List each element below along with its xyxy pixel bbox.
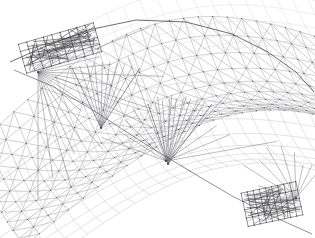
- grid-node: [138, 108, 139, 109]
- cluster-node: [262, 205, 263, 206]
- cluster-node: [253, 190, 254, 191]
- grid-node: [27, 219, 28, 220]
- grid-node: [185, 131, 186, 132]
- grid-node: [54, 221, 55, 222]
- grid-node: [285, 27, 286, 28]
- grid-node: [81, 140, 82, 141]
- grid-node: [227, 17, 228, 18]
- grid-node: [257, 104, 258, 105]
- cluster-node: [293, 199, 294, 200]
- grid-node: [297, 59, 298, 60]
- grid-node: [178, 129, 179, 130]
- grid-node: [209, 85, 210, 86]
- grid-node: [233, 35, 234, 36]
- grid-node: [294, 100, 295, 101]
- grid-node: [82, 102, 83, 103]
- cluster-node: [84, 56, 85, 57]
- grid-node: [192, 123, 193, 124]
- grid-node: [114, 157, 115, 158]
- grid-node: [11, 154, 12, 155]
- grid-node: [155, 24, 156, 25]
- grid-node: [287, 92, 288, 93]
- grid-node: [36, 200, 37, 201]
- cluster-node: [101, 51, 102, 52]
- grid-node: [116, 134, 117, 135]
- grid-node: [211, 53, 212, 54]
- grid-node: [68, 111, 69, 112]
- grid-node: [9, 191, 10, 192]
- cluster-node: [285, 192, 286, 193]
- grid-node: [130, 126, 131, 127]
- cluster-node: [68, 29, 69, 30]
- cluster-node: [271, 186, 272, 187]
- cluster-node: [299, 198, 300, 199]
- grid-node: [19, 127, 20, 128]
- grid-node: [24, 180, 25, 181]
- cluster-node: [34, 39, 35, 40]
- mesh-viewport[interactable]: [0, 0, 315, 238]
- cluster-node: [47, 51, 48, 52]
- grid-node: [122, 142, 123, 143]
- cluster-node: [68, 61, 69, 62]
- grid-node: [39, 233, 40, 234]
- grid-node: [215, 111, 216, 112]
- grid-node: [153, 66, 154, 67]
- cluster-node: [278, 219, 279, 220]
- grid-node: [144, 119, 145, 120]
- grid-node: [212, 16, 213, 17]
- cluster-node: [59, 63, 60, 64]
- grid-node: [79, 170, 80, 171]
- grid-node: [174, 78, 175, 79]
- grid-node: [221, 114, 222, 115]
- cluster-node: [277, 185, 278, 186]
- cluster-node: [247, 191, 248, 192]
- grid-node: [204, 35, 205, 36]
- cluster-node: [246, 218, 247, 219]
- grid-node: [225, 52, 226, 53]
- grid-node: [203, 71, 204, 72]
- grid-node: [161, 43, 162, 44]
- grid-node: [13, 230, 14, 231]
- grid-node: [50, 190, 51, 191]
- grid-node: [136, 134, 137, 135]
- cluster-node: [53, 41, 54, 42]
- grid-node: [54, 121, 55, 122]
- cluster-node: [254, 198, 255, 199]
- cluster-node: [82, 49, 83, 50]
- cluster-node: [59, 32, 60, 33]
- cluster-node: [273, 194, 274, 195]
- grid-node: [250, 108, 251, 109]
- cluster-node: [265, 187, 266, 188]
- cluster-node: [84, 25, 85, 26]
- grid-node: [96, 93, 97, 94]
- cluster-node: [93, 22, 94, 23]
- cluster-node: [26, 41, 27, 42]
- cluster-node: [20, 51, 21, 52]
- grid-node: [62, 204, 63, 205]
- grid-node: [179, 115, 180, 116]
- grid-node: [98, 186, 99, 187]
- cluster-node: [279, 193, 280, 194]
- cluster-node: [64, 46, 65, 47]
- grid-node: [125, 78, 126, 79]
- grid-node: [151, 127, 152, 128]
- cluster-node: [43, 37, 44, 38]
- grid-node: [74, 127, 75, 128]
- cone-apex-node: [167, 163, 169, 165]
- cluster-node: [248, 226, 249, 227]
- cluster-node: [39, 53, 40, 54]
- grid-node: [123, 115, 124, 116]
- grid-node: [195, 88, 196, 89]
- grid-node: [196, 55, 197, 56]
- grid-node: [207, 118, 208, 119]
- grid-node: [168, 62, 169, 63]
- grid-node: [143, 140, 144, 141]
- cluster-node: [272, 221, 273, 222]
- fan-hub-node: [295, 197, 297, 199]
- cluster-node: [276, 211, 277, 212]
- cluster-node: [41, 61, 42, 62]
- cluster-node: [264, 214, 265, 215]
- grid-node: [117, 102, 118, 103]
- grid-node: [306, 110, 307, 111]
- cluster-node: [290, 217, 291, 218]
